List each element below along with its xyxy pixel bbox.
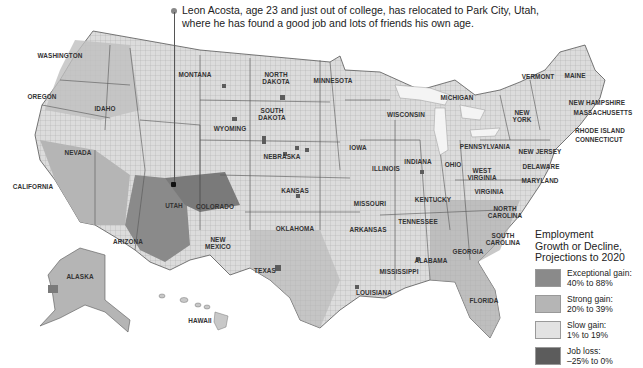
state-label-indiana: INDIANA — [404, 158, 431, 165]
legend-range: 20% to 39% — [567, 304, 613, 314]
swatch-job-loss — [535, 347, 561, 365]
legend-title: Employment Growth or Decline, Projection… — [535, 229, 643, 264]
swatch-slow-gain — [535, 321, 561, 339]
state-label-colorado: COLORADO — [196, 203, 234, 210]
state-label-vermont: VERMONT — [522, 73, 555, 80]
state-label-north-dakota: NORTHDAKOTA — [262, 71, 289, 85]
state-label-maryland: MARYLAND — [521, 177, 558, 184]
state-label-montana: MONTANA — [179, 71, 212, 78]
state-label-arkansas: ARKANSAS — [349, 226, 386, 233]
state-label-texas: TEXAS — [254, 267, 276, 274]
legend-label: Slow gain: — [567, 320, 608, 330]
legend-label: Strong gain: — [567, 294, 613, 304]
state-label-utah: UTAH — [165, 202, 183, 209]
state-label-kentucky: KENTUCKY — [415, 196, 451, 203]
state-label-florida: FLORIDA — [469, 297, 498, 304]
state-label-delaware: DELAWARE — [522, 163, 559, 170]
map-legend: Employment Growth or Decline, Projection… — [535, 229, 643, 368]
state-label-oregon: OREGON — [27, 93, 56, 100]
state-label-iowa: IOWA — [349, 144, 366, 151]
state-label-california: CALIFORNIA — [13, 183, 53, 190]
state-label-alabama: ALABAMA — [414, 257, 447, 264]
state-label-new-mexico: NEWMEXICO — [205, 236, 231, 250]
state-label-alaska: ALASKA — [66, 273, 93, 280]
legend-item-strong-gain: Strong gain: 20% to 39% — [535, 294, 643, 314]
state-label-connecticut: CONNECTICUT — [575, 136, 623, 143]
state-label-oklahoma: OKLAHOMA — [276, 225, 314, 232]
state-label-new-jersey: NEW JERSEY — [519, 148, 562, 155]
state-label-missouri: MISSOURI — [354, 200, 386, 207]
legend-range: 40% to 88% — [567, 278, 632, 288]
state-label-nevada: NEVADA — [64, 149, 91, 156]
state-label-south-dakota: SOUTHDAKOTA — [258, 107, 285, 121]
legend-label: Exceptional gain: — [567, 268, 632, 278]
state-label-michigan: MICHIGAN — [440, 94, 473, 101]
state-label-wyoming: WYOMING — [214, 125, 247, 132]
state-label-illinois: ILLINOIS — [372, 165, 400, 172]
state-label-massachusetts: MASSACHUSETTS — [574, 109, 633, 116]
legend-range: 1% to 19% — [567, 330, 608, 340]
state-label-new-york: NEWYORK — [513, 109, 532, 123]
legend-label: Job loss: — [567, 346, 613, 356]
state-label-maine: MAINE — [564, 72, 585, 79]
state-label-south-carolina: SOUTHCAROLINA — [486, 232, 521, 246]
swatch-exceptional-gain — [535, 269, 561, 287]
legend-item-slow-gain: Slow gain: 1% to 19% — [535, 320, 643, 340]
state-label-nebraska: NEBRASKA — [263, 153, 300, 160]
state-label-new-hampshire: NEW HAMPSHIRE — [569, 99, 625, 106]
caption-line-2: where he has found a good job and lots o… — [182, 17, 532, 30]
state-label-wisconsin: WISCONSIN — [387, 111, 425, 118]
legend-range: –25% to 0% — [567, 356, 613, 366]
state-label-north-carolina: NORTHCAROLINA — [488, 205, 523, 219]
swatch-strong-gain — [535, 295, 561, 313]
legend-item-exceptional-gain: Exceptional gain: 40% to 88% — [535, 268, 643, 288]
state-label-virginia: VIRGINIA — [474, 188, 503, 195]
state-label-arizona: ARIZONA — [113, 238, 143, 245]
state-label-tennessee: TENNESSEE — [398, 218, 438, 225]
state-label-hawaii: HAWAII — [188, 317, 211, 324]
state-label-louisiana: LOUISIANA — [356, 289, 392, 296]
story-caption: Leon Acosta, age 23 and just out of coll… — [182, 4, 532, 30]
state-label-washington: WASHINGTON — [38, 52, 83, 59]
legend-title-line-3: Projections to 2020 — [535, 252, 643, 264]
caption-line-1: Leon Acosta, age 23 and just out of coll… — [182, 4, 532, 17]
hawaii — [159, 294, 228, 330]
legend-item-job-loss: Job loss: –25% to 0% — [535, 346, 643, 366]
park-city-location-marker — [171, 182, 176, 187]
state-label-pennsylvania: PENNSYLVANIA — [460, 143, 510, 150]
region-southeast-strong — [430, 200, 520, 338]
state-label-idaho: IDAHO — [94, 105, 115, 112]
callout-leader-line — [174, 12, 175, 184]
state-label-mississippi: MISSISSIPPI — [379, 268, 418, 275]
state-label-kansas: KANSAS — [281, 187, 309, 194]
legend-title-line-1: Employment — [535, 229, 643, 241]
state-label-ohio: OHIO — [445, 161, 462, 168]
state-label-rhode-island: RHODE ISLAND — [575, 127, 625, 134]
state-label-minnesota: MINNESOTA — [314, 77, 353, 84]
state-label-georgia: GEORGIA — [453, 248, 484, 255]
state-label-west-virginia: WESTVIRGINIA — [467, 167, 496, 181]
